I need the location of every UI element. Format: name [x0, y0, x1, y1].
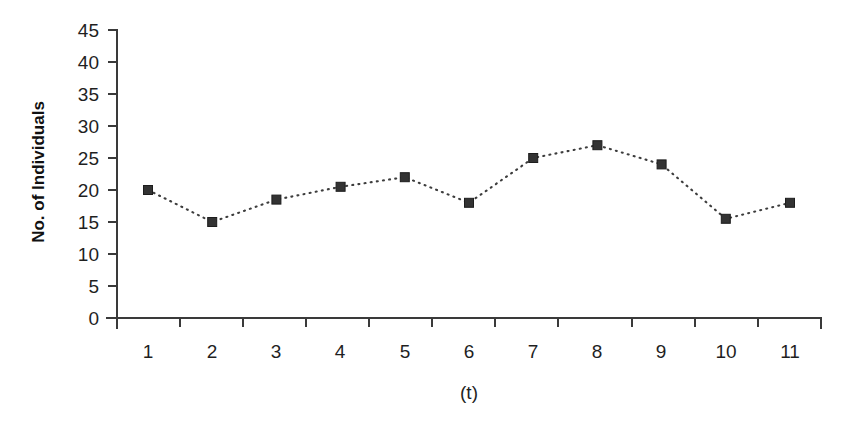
x-tick-label: 5: [400, 341, 411, 362]
chart-plot-area: No. of Individuals 45 40 35 30 25 20 15: [0, 0, 861, 425]
data-point-marker: [721, 214, 730, 223]
y-axis-title: No. of Individuals: [29, 101, 48, 243]
x-tick-label: 9: [656, 341, 667, 362]
data-point-marker: [208, 218, 217, 227]
data-point-marker: [336, 182, 345, 191]
data-point-marker: [657, 160, 666, 169]
x-tick-label: 4: [335, 341, 346, 362]
y-tick-label: 15: [78, 212, 99, 233]
data-point-marker: [272, 195, 281, 204]
x-tick-label: 2: [207, 341, 218, 362]
x-tick-label: 11: [780, 341, 800, 362]
y-tick-label: 25: [78, 148, 99, 169]
y-tick-label: 0: [88, 308, 99, 329]
chart-figure: No. of Individuals 45 40 35 30 25 20 15: [0, 0, 861, 425]
y-tick-label: 5: [88, 276, 99, 297]
x-tick-label: 1: [143, 341, 154, 362]
x-tick-label: 7: [528, 341, 539, 362]
x-tick-label: 3: [271, 341, 282, 362]
data-point-marker: [529, 154, 538, 163]
y-tick-label: 10: [78, 244, 99, 265]
data-point-marker: [593, 141, 602, 150]
series-line-no-of-individuals: [148, 145, 790, 222]
y-tick-label: 20: [78, 180, 99, 201]
y-tick-label: 45: [78, 20, 99, 41]
data-point-marker: [786, 198, 795, 207]
series-markers: [144, 141, 795, 227]
x-axis-tick-labels: 1 2 3 4 5 6 7 8 9 10 11: [143, 341, 800, 362]
x-tick-label: 8: [592, 341, 603, 362]
y-axis-ticks: [106, 30, 117, 318]
y-tick-label: 30: [78, 116, 99, 137]
y-tick-label: 40: [78, 52, 99, 73]
x-axis-ticks: [117, 318, 821, 329]
x-tick-label: 10: [715, 341, 736, 362]
y-axis-tick-labels: 45 40 35 30 25 20 15 10 5 0: [78, 20, 99, 329]
data-point-marker: [465, 198, 474, 207]
x-tick-label: 6: [464, 341, 475, 362]
x-axis-title: (t): [460, 382, 478, 403]
y-tick-label: 35: [78, 84, 99, 105]
data-point-marker: [400, 173, 409, 182]
data-point-marker: [144, 186, 153, 195]
